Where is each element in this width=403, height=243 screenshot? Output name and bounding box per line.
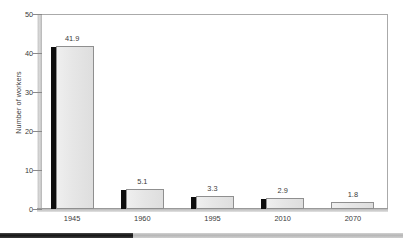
bar-face (331, 202, 374, 209)
bar-face (196, 196, 234, 209)
y-axis-tick-label: 50 (17, 10, 33, 19)
bar-value-label: 1.8 (331, 190, 374, 199)
x-axis-tick-label: 1995 (204, 214, 220, 223)
bar[interactable]: 41.9 (51, 14, 94, 209)
y-axis-tick-mark (33, 14, 42, 15)
bar-series: 41.95.13.32.91.8 (37, 14, 388, 209)
y-axis-tick-label: 40 (17, 49, 33, 58)
y-axis-tick-mark (33, 170, 42, 171)
y-axis-tick-mark (33, 92, 42, 93)
y-axis-tick-labels: 01020304050 (13, 0, 33, 243)
y-axis-tick-label: 30 (17, 88, 33, 97)
bar[interactable]: 5.1 (121, 14, 164, 209)
x-axis-tick-label: 1945 (64, 214, 80, 223)
bar-value-label: 2.9 (261, 186, 304, 195)
bar-chart-figure: Number of workers 01020304050 41.95.13.3… (0, 0, 403, 243)
bar-value-label: 41.9 (51, 34, 94, 43)
x-axis-tick-labels: 19451960199520102070 (37, 214, 388, 228)
y-axis-tick-mark (33, 209, 42, 210)
y-axis-tick-label: 10 (17, 166, 33, 175)
bar-face (266, 198, 304, 209)
bar-face (56, 46, 94, 209)
y-axis-tick-label: 20 (17, 127, 33, 136)
bar[interactable]: 2.9 (261, 14, 304, 209)
bar[interactable]: 3.3 (191, 14, 234, 209)
bar[interactable]: 1.8 (331, 14, 374, 209)
bar-value-label: 3.3 (191, 184, 234, 193)
y-axis-tick-mark (33, 131, 42, 132)
y-axis-tick-mark (33, 53, 42, 54)
footer-rule-dark-segment (0, 233, 133, 238)
y-axis-tick-label: 0 (17, 205, 33, 214)
bar-face (126, 189, 164, 209)
x-axis-tick-label: 2010 (274, 214, 290, 223)
footer-rule (0, 233, 403, 238)
x-axis-tick-label: 1960 (134, 214, 150, 223)
footer-rule-light-segment (133, 233, 403, 238)
x-axis-floor (37, 209, 388, 212)
x-axis-tick-label: 2070 (345, 214, 361, 223)
bar-value-label: 5.1 (121, 177, 164, 186)
